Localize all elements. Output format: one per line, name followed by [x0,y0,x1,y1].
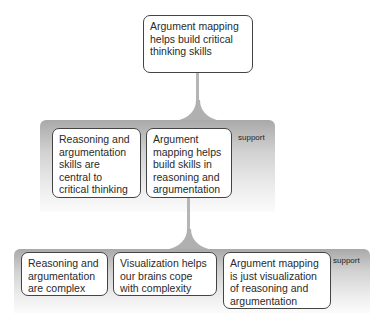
premise-node[interactable]: Argument mapping is just visualization o… [223,252,331,309]
premise-text: Argument mapping is just visualization o… [230,257,319,307]
premise-node[interactable]: Visualization helps our brains cope with… [113,252,217,296]
premise-text: Argument mapping helps build skills in r… [153,133,221,195]
premise-node[interactable]: Argument mapping helps build skills in r… [146,128,232,198]
premise-text: Reasoning and argumentation are complex [28,257,99,294]
premise-text: Reasoning and argumentation skills are c… [59,133,130,195]
connector-flare [176,100,220,121]
conclusion-text: Argument mapping helps build critical th… [150,20,239,57]
connector-flare [166,229,212,250]
premise-text: Visualization helps our brains cope with… [120,257,207,294]
support-label-level1: support [238,133,265,142]
premise-node[interactable]: Reasoning and argumentation are complex [21,252,108,296]
premise-node[interactable]: Reasoning and argumentation skills are c… [52,128,141,198]
support-label-level2: support [333,256,360,265]
conclusion-node[interactable]: Argument mapping helps build critical th… [143,15,253,73]
